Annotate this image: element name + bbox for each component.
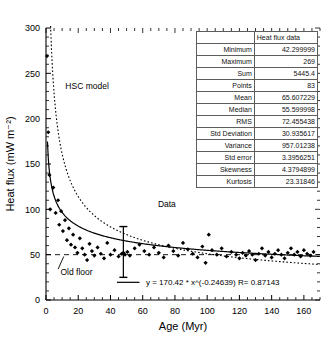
x-tick-label: 100 (200, 306, 215, 316)
data-point (181, 241, 185, 245)
stat-value: 65.607229 (254, 92, 317, 104)
data-point (95, 245, 99, 249)
data-point (186, 247, 190, 251)
y-tick-label: 150 (25, 159, 40, 169)
y-tick-label: 200 (25, 114, 40, 124)
data-point (112, 248, 116, 252)
stat-value: 30.935617 (254, 128, 317, 140)
x-tick-label: 120 (232, 306, 247, 316)
stat-label: Variance (197, 140, 255, 152)
data-point (311, 250, 315, 254)
data-point (266, 250, 270, 254)
data-point (191, 252, 195, 256)
data-point (61, 229, 65, 233)
data-point (92, 253, 96, 257)
data-point (48, 207, 52, 211)
stat-value: 83 (254, 80, 317, 92)
table-row: Std Deviation30.935617 (197, 128, 318, 140)
table-row: Std error3.3956251 (197, 152, 318, 164)
hsc-model-label: HSC model (65, 81, 109, 91)
data-point (133, 246, 137, 250)
x-tick-label: 60 (138, 306, 148, 316)
table-row: RMS72.455438 (197, 116, 318, 128)
data-point (270, 255, 274, 259)
data-point (276, 248, 280, 252)
data-point (46, 130, 50, 134)
stat-value: 957.01238 (254, 140, 317, 152)
old-floor-label: Old floor (61, 267, 93, 277)
table-row: Variance957.01238 (197, 140, 318, 152)
data-point (292, 253, 296, 257)
y-tick-label: 50 (30, 250, 40, 260)
x-tick-label: 40 (105, 306, 115, 316)
data-point (65, 238, 69, 242)
table-row: Mean65.607229 (197, 92, 318, 104)
data-point (195, 255, 199, 259)
stat-label: Skewness (197, 164, 255, 176)
data-point (302, 248, 306, 252)
data-point (237, 256, 241, 260)
data-point (289, 246, 293, 250)
data-point (108, 253, 112, 257)
data-point (207, 233, 211, 237)
data-point (171, 249, 175, 253)
data-point (162, 255, 166, 259)
stat-value: 72.455438 (254, 116, 317, 128)
stat-label: RMS (197, 116, 255, 128)
y-tick-label: 0 (35, 295, 40, 305)
data-point (87, 242, 91, 246)
data-point (142, 249, 146, 253)
table-row: Minimum42.299999 (197, 44, 318, 56)
table-column-header: Heat flux data (254, 32, 317, 44)
stat-label: Mean (197, 92, 255, 104)
table-row: Skewness4.3794899 (197, 164, 318, 176)
data-label: Data (158, 199, 176, 209)
data-point (210, 248, 214, 252)
data-point (90, 249, 94, 253)
stat-value: 23.31846 (254, 176, 317, 188)
table-row: Maximum269 (197, 56, 318, 68)
table-row: Sum5445.4 (197, 68, 318, 80)
data-point (73, 245, 77, 249)
table-corner-cell (197, 32, 255, 44)
data-point (57, 223, 61, 227)
data-point (147, 253, 151, 257)
data-point (99, 252, 103, 256)
x-tick-label: 140 (264, 306, 279, 316)
data-point (273, 252, 277, 256)
stat-label: Kurtosis (197, 176, 255, 188)
y-tick-label: 100 (25, 205, 40, 215)
stat-label: Minimum (197, 44, 255, 56)
stat-label: Std error (197, 152, 255, 164)
stat-value: 3.3956251 (254, 152, 317, 164)
data-point (105, 241, 109, 245)
data-point (54, 211, 58, 215)
x-axis-label: Age (Myr) (159, 320, 207, 332)
data-point (125, 250, 129, 254)
data-point (244, 253, 248, 257)
data-point (71, 233, 75, 237)
data-point (176, 253, 180, 257)
data-point (282, 256, 286, 260)
table-row: Median55.599998 (197, 104, 318, 116)
stat-label: Points (197, 80, 255, 92)
data-point (128, 253, 132, 257)
stat-value: 269 (254, 56, 317, 68)
data-point (229, 250, 233, 254)
stat-label: Sum (197, 68, 255, 80)
y-axis-label: Heat flux (mW m⁻²) (4, 116, 16, 211)
x-tick-label: 160 (296, 306, 311, 316)
data-point (102, 256, 106, 260)
stat-value: 55.599998 (254, 104, 317, 116)
table-row: Kurtosis23.31846 (197, 176, 318, 188)
table-header-row: Heat flux data (197, 32, 318, 44)
data-point (295, 250, 299, 254)
figure-heat-flux-vs-age: 050100150200250300020406080100120140160A… (0, 0, 334, 349)
stat-label: Median (197, 104, 255, 116)
x-tick-label: 20 (73, 306, 83, 316)
data-point (80, 246, 84, 250)
fit-equation-label: y = 170.42 * x^(-0.24639) R= 0.87143 (146, 278, 280, 287)
stat-value: 4.3794899 (254, 164, 317, 176)
data-point (78, 236, 82, 240)
data-point (260, 246, 264, 250)
